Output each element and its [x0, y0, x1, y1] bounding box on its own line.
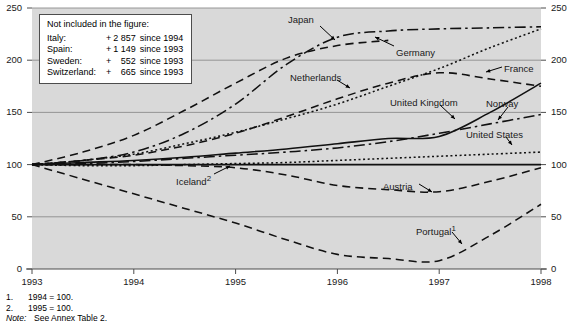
footnote-item: 2. 1995 = 100.: [6, 303, 566, 314]
note-since: since 1993: [140, 67, 184, 78]
note-country: Italy:: [47, 33, 106, 44]
note-sign: +: [106, 56, 113, 67]
y-axis-label-left-50: 50: [0, 212, 22, 222]
series-label-netherlands: Netherlands: [290, 73, 341, 83]
figure-container: 0501001502002500501001502002501993199419…: [0, 0, 573, 326]
label-footnote-marker: 2: [207, 174, 211, 183]
y-axis-label-right-250: 250: [551, 3, 573, 13]
source-note-text: See Annex Table 2.: [34, 313, 107, 324]
note-box-row: Italy:+2 857since 1994: [47, 33, 183, 44]
source-note: Note: See Annex Table 2.: [6, 313, 566, 324]
footnote-number: 1.: [6, 292, 28, 303]
series-label-iceland: Iceland2: [176, 174, 211, 187]
y-axis-label-right-50: 50: [551, 212, 573, 222]
y-axis-label-right-0: 0: [551, 264, 573, 274]
note-box-row: Spain:+1 149since 1993: [47, 44, 183, 55]
y-axis-label-left-0: 0: [0, 264, 22, 274]
y-axis-label-right-100: 100: [551, 160, 573, 170]
footnote-item: 1. 1994 = 100.: [6, 292, 566, 303]
series-label-united-states: United States: [466, 130, 523, 140]
series-label-united-kingdom: United Kingdom: [390, 98, 458, 108]
note-value: 552: [113, 56, 140, 67]
x-axis-label-1998: 1998: [521, 277, 561, 287]
note-value: 665: [113, 67, 140, 78]
note-since: since 1994: [140, 33, 184, 44]
footnote-text: 1995 = 100.: [28, 303, 73, 314]
series-label-france: France: [504, 64, 534, 74]
x-axis-label-1995: 1995: [216, 277, 256, 287]
note-since: since 1993: [140, 44, 184, 55]
footnotes-block: 1. 1994 = 100. 2. 1995 = 100. Note: See …: [6, 292, 566, 324]
y-axis-label-left-250: 250: [0, 3, 22, 13]
y-axis-label-right-150: 150: [551, 107, 573, 117]
series-label-portugal: Portugal1: [416, 224, 456, 237]
series-label-norway: Norway: [486, 99, 518, 109]
y-axis-label-left-150: 150: [0, 107, 22, 117]
note-sign: +: [106, 44, 113, 55]
x-axis-label-1993: 1993: [12, 277, 52, 287]
label-footnote-marker: 1: [451, 224, 455, 233]
series-label-germany: Germany: [396, 48, 435, 58]
x-axis-label-1994: 1994: [114, 277, 154, 287]
note-country: Switzerland:: [47, 67, 106, 78]
note-country: Spain:: [47, 44, 106, 55]
y-axis-label-left-200: 200: [0, 55, 22, 65]
footnote-text: 1994 = 100.: [28, 292, 73, 303]
not-included-note-box: Not included in the figure: Italy:+2 857…: [39, 14, 192, 84]
note-sign: +: [106, 33, 113, 44]
note-since: since 1993: [140, 56, 184, 67]
y-axis-label-left-100: 100: [0, 160, 22, 170]
note-box-table: Italy:+2 857since 1994Spain:+1 149since …: [47, 33, 183, 78]
x-axis-label-1996: 1996: [317, 277, 357, 287]
note-box-title: Not included in the figure:: [47, 19, 183, 30]
note-box-row: Switzerland:+665since 1993: [47, 67, 183, 78]
x-axis-label-1997: 1997: [419, 277, 459, 287]
series-label-austria: Austria: [383, 182, 413, 192]
footnote-number: 2.: [6, 303, 28, 314]
note-sign: +: [106, 67, 113, 78]
note-country: Sweden:: [47, 56, 106, 67]
note-value: 2 857: [113, 33, 140, 44]
note-value: 1 149: [113, 44, 140, 55]
series-label-japan: Japan: [288, 15, 314, 25]
note-box-row: Sweden:+552since 1993: [47, 56, 183, 67]
y-axis-label-right-200: 200: [551, 55, 573, 65]
source-note-label: Note:: [6, 313, 34, 324]
